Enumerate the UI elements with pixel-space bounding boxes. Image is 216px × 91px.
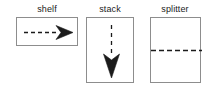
panel-label-splitter: splitter — [144, 4, 206, 15]
shelf-arrow-graphic — [17, 18, 79, 47]
stack-arrowhead — [104, 54, 120, 78]
panel-box-shelf — [16, 17, 78, 46]
panel-label-shelf: shelf — [10, 4, 84, 15]
panel-box-stack — [86, 17, 134, 83]
panel-box-splitter — [150, 17, 201, 83]
panel-splitter: splitter — [144, 4, 206, 84]
shelf-arrowhead — [56, 26, 73, 40]
panel-shelf: shelf — [10, 4, 84, 49]
panel-stack: stack — [82, 4, 138, 84]
panel-label-stack: stack — [82, 4, 138, 15]
stack-arrow-graphic — [87, 18, 135, 84]
splitter-divider-graphic — [151, 18, 202, 84]
diagram-canvas: shelf stack splitter — [0, 0, 216, 91]
